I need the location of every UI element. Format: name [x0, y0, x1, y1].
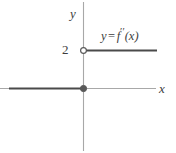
- curve-label-operator: =: [107, 29, 117, 43]
- graph-figure: y x 2 y=f′′(x): [0, 0, 176, 153]
- open-point-at-2-marker: [81, 48, 87, 54]
- curve-label-close-paren: ): [134, 29, 138, 43]
- curve-label-lhs: y: [101, 29, 107, 43]
- y-axis-label: y: [70, 6, 76, 22]
- x-axis-label: x: [159, 81, 165, 97]
- closed-point-origin-marker: [80, 85, 86, 91]
- graph-canvas: [0, 0, 176, 153]
- curve-equation-label: y=f′′(x): [101, 26, 139, 44]
- y-tick-label-2: 2: [62, 42, 69, 58]
